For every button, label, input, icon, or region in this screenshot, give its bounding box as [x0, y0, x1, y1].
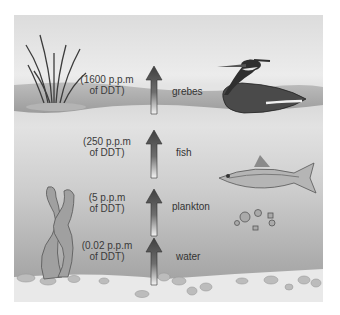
concentration-label-grebes: (1600 p.p.m of DDT)	[72, 74, 142, 96]
reed-base	[26, 103, 86, 111]
concentration-label-water: (0.02 p.p.m of DDT)	[70, 240, 144, 262]
scene	[14, 15, 323, 302]
concentration-label-fish: (250 p.p.m of DDT)	[72, 136, 142, 158]
water-body	[14, 100, 323, 280]
organism-label-water: water	[176, 251, 200, 262]
organism-label-fish: fish	[176, 147, 192, 158]
concentration-label-plankton: (5 p.p.m of DDT)	[72, 192, 142, 214]
diagram-panel: (1600 p.p.m of DDT) (250 p.p.m of DDT) (…	[14, 15, 323, 302]
organism-label-plankton: plankton	[172, 201, 210, 212]
organism-label-grebes: grebes	[172, 86, 203, 97]
